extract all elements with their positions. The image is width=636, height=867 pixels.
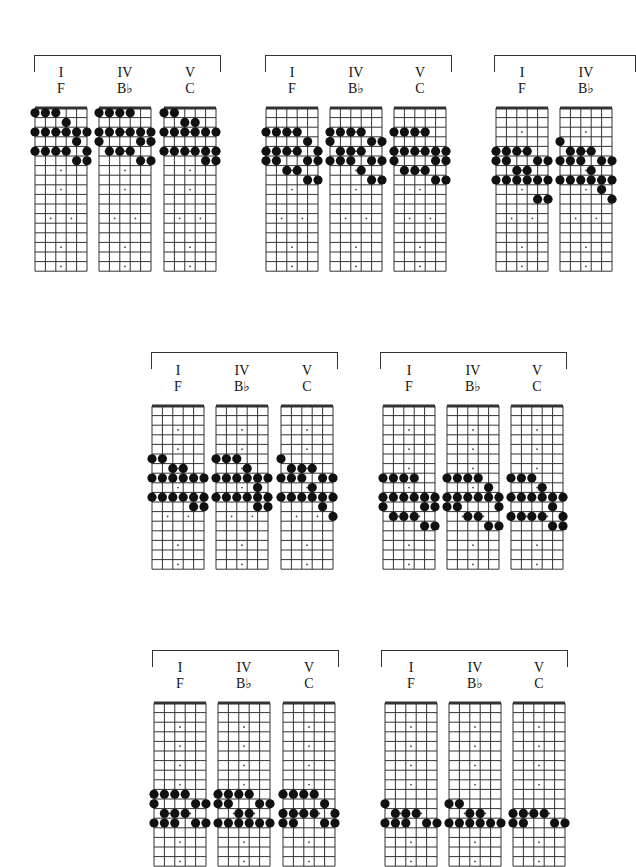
note-dot — [253, 493, 262, 502]
note-dot — [265, 818, 274, 827]
chord-name-label: F — [35, 81, 87, 96]
fretboard-grid — [447, 406, 500, 570]
note-dot — [94, 108, 103, 117]
note-dot — [543, 156, 552, 165]
fretboard-diagram — [560, 108, 613, 272]
fretboard-diagram — [283, 703, 336, 867]
note-dot — [508, 809, 517, 818]
note-dot — [587, 147, 596, 156]
note-dot — [94, 127, 103, 136]
fretboard-grid — [513, 703, 566, 867]
note-dot — [147, 454, 156, 463]
note-dot — [517, 512, 526, 521]
note-dot — [30, 108, 39, 117]
note-dot — [222, 454, 231, 463]
note-dot — [72, 137, 81, 146]
note-dot — [105, 108, 114, 117]
scale-degree-label: IV — [447, 363, 499, 378]
fretboard-diagram — [266, 108, 319, 272]
fretboard-grid — [152, 406, 205, 570]
note-dot — [484, 521, 493, 530]
note-dot — [191, 799, 200, 808]
fretboard-grid — [216, 406, 269, 570]
note-dot — [367, 156, 376, 165]
note-dot — [170, 127, 179, 136]
note-dot — [548, 502, 557, 511]
note-dot — [432, 818, 441, 827]
note-dot — [308, 493, 317, 502]
note-dot — [430, 521, 439, 530]
note-dot — [597, 156, 606, 165]
note-dot — [389, 156, 398, 165]
fretboard-diagram — [447, 406, 500, 570]
note-dot — [51, 108, 60, 117]
note-dot — [149, 818, 158, 827]
note-dot — [232, 473, 241, 482]
note-dot — [243, 464, 252, 473]
note-dot — [441, 147, 450, 156]
note-dot — [136, 137, 145, 146]
note-dot — [299, 809, 308, 818]
fretboard-diagram — [383, 406, 436, 570]
note-dot — [346, 127, 355, 136]
note-dot — [330, 809, 339, 818]
note-dot — [566, 156, 575, 165]
fretboard-diagram — [394, 108, 447, 272]
note-dot — [357, 166, 366, 175]
note-dot — [538, 483, 547, 492]
chord-name-label: B♭ — [99, 81, 151, 96]
note-dot — [282, 127, 291, 136]
note-dot — [126, 127, 135, 136]
fretboard-grid — [394, 108, 447, 272]
note-dot — [318, 493, 327, 502]
note-dot — [389, 473, 398, 482]
note-dot — [506, 493, 515, 502]
note-dot — [474, 493, 483, 502]
note-dot — [357, 127, 366, 136]
note-dot — [410, 512, 419, 521]
note-dot — [410, 147, 419, 156]
note-dot — [297, 493, 306, 502]
chord-name-label: B♭ — [449, 676, 501, 691]
note-dot — [245, 818, 254, 827]
note-dot — [201, 127, 210, 136]
note-dot — [126, 147, 135, 156]
note-dot — [476, 809, 485, 818]
note-dot — [380, 799, 389, 808]
fretboard-grid — [154, 703, 207, 867]
note-dot — [430, 502, 439, 511]
note-dot — [213, 818, 222, 827]
note-dot — [272, 147, 281, 156]
note-dot — [491, 156, 500, 165]
note-dot — [168, 464, 177, 473]
note-dot — [597, 185, 606, 194]
note-dot — [253, 483, 262, 492]
note-dot — [293, 166, 302, 175]
note-dot — [367, 137, 376, 146]
note-dot — [533, 156, 542, 165]
scale-degree-label: I — [35, 65, 87, 80]
note-dot — [147, 473, 156, 482]
chord-name-label: B♭ — [330, 81, 382, 96]
note-dot — [533, 175, 542, 184]
note-dot — [297, 464, 306, 473]
note-dot — [115, 127, 124, 136]
note-dot — [62, 127, 71, 136]
note-dot — [430, 493, 439, 502]
note-dot — [181, 790, 190, 799]
chord-name-label: F — [266, 81, 318, 96]
note-dot — [555, 156, 564, 165]
note-dot — [453, 493, 462, 502]
note-dot — [180, 118, 189, 127]
note-dot — [313, 156, 322, 165]
note-dot — [211, 473, 220, 482]
note-dot — [377, 137, 386, 146]
note-dot — [420, 521, 429, 530]
note-dot — [476, 818, 485, 827]
note-dot — [550, 818, 559, 827]
note-dot — [496, 818, 505, 827]
note-dot — [213, 799, 222, 808]
note-dot — [346, 156, 355, 165]
note-dot — [399, 512, 408, 521]
note-dot — [293, 127, 302, 136]
